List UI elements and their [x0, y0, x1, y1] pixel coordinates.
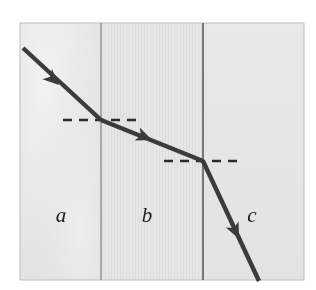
refraction-diagram: a b c — [0, 0, 316, 290]
region-b — [101, 23, 203, 280]
region-a-shading — [20, 23, 101, 280]
region-a — [20, 23, 101, 280]
region-label-b: b — [142, 203, 153, 227]
region-label-c: c — [247, 203, 257, 227]
region-label-a: a — [56, 203, 67, 227]
figure-container: a b c — [0, 0, 316, 290]
region-b-fill — [101, 23, 203, 280]
region-c — [203, 23, 304, 280]
region-c-fill — [203, 23, 304, 280]
